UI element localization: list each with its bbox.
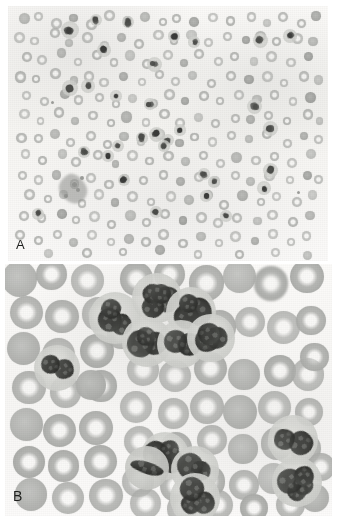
red-blood-cell (240, 494, 269, 516)
red-blood-cell (199, 91, 208, 100)
red-blood-cell (283, 117, 291, 125)
red-blood-cell (216, 97, 224, 105)
red-blood-cell (54, 107, 64, 117)
red-blood-cell (107, 220, 116, 229)
red-blood-cell (305, 211, 315, 221)
red-blood-cell (57, 48, 67, 58)
red-blood-cell (216, 159, 225, 168)
red-blood-cell (19, 211, 30, 222)
red-blood-cell (176, 177, 185, 186)
red-blood-cell (199, 151, 208, 160)
red-blood-cell (139, 176, 148, 185)
red-blood-cell (271, 248, 280, 257)
red-blood-cell (179, 216, 187, 224)
red-blood-cell (32, 75, 40, 83)
red-blood-cell (18, 171, 27, 180)
red-blood-cell (230, 231, 241, 242)
red-blood-cell (119, 132, 128, 141)
red-blood-cell (112, 160, 120, 168)
red-blood-cell (160, 209, 170, 219)
red-blood-cell (237, 190, 248, 201)
red-blood-cell (104, 10, 115, 21)
nucleus (176, 128, 181, 133)
red-blood-cell (107, 238, 115, 246)
red-blood-cell (119, 72, 128, 81)
red-blood-cell (270, 90, 280, 100)
red-blood-cell (74, 58, 83, 67)
red-blood-cell (267, 210, 278, 221)
red-blood-cell (270, 152, 279, 161)
red-blood-cell (48, 450, 79, 481)
red-blood-cell (227, 131, 237, 141)
panel-b (5, 264, 332, 516)
red-blood-cell (194, 49, 204, 59)
red-blood-cell (158, 229, 169, 240)
red-blood-cell (94, 189, 104, 199)
red-blood-cell (251, 237, 259, 245)
red-blood-cell (95, 93, 104, 102)
red-blood-cell (99, 78, 108, 87)
red-blood-cell (142, 118, 151, 127)
red-blood-cell (235, 250, 244, 259)
red-blood-cell (71, 264, 104, 297)
red-blood-cell (45, 300, 78, 333)
red-blood-cell (305, 92, 316, 103)
red-blood-cell (306, 149, 316, 159)
red-blood-cell (178, 239, 187, 248)
red-blood-cell (272, 37, 281, 46)
red-blood-cell (254, 266, 289, 301)
red-blood-cell (52, 482, 84, 514)
red-blood-cell (128, 94, 137, 103)
red-blood-cell (50, 68, 61, 79)
red-blood-cell (65, 39, 73, 47)
red-blood-cell (119, 248, 127, 256)
red-blood-cell (145, 157, 154, 166)
red-blood-cell (230, 52, 239, 61)
red-blood-cell (69, 238, 78, 247)
red-blood-cell (110, 58, 119, 67)
red-blood-cell (53, 230, 62, 239)
red-blood-cell (262, 71, 273, 82)
red-blood-cell (189, 17, 199, 27)
red-blood-cell (158, 398, 189, 429)
red-blood-cell (36, 264, 67, 290)
red-blood-cell (264, 111, 273, 120)
red-blood-cell (250, 57, 258, 65)
red-blood-cell (51, 18, 62, 29)
red-blood-cell (190, 133, 199, 142)
red-blood-cell (10, 408, 43, 441)
red-blood-cell (303, 251, 312, 260)
red-blood-cell (138, 78, 146, 86)
red-blood-cell (316, 117, 324, 125)
red-blood-cell (266, 51, 277, 62)
red-blood-cell (147, 198, 155, 206)
platelet (297, 191, 300, 194)
red-blood-cell (223, 264, 256, 293)
red-blood-cell (34, 12, 43, 21)
red-blood-cell (247, 12, 256, 21)
red-blood-cell (300, 132, 309, 141)
red-blood-cell (302, 231, 311, 240)
red-blood-cell (297, 19, 306, 28)
red-blood-cell (180, 59, 188, 67)
red-blood-cell (175, 139, 183, 147)
red-blood-cell (257, 198, 265, 206)
red-blood-cell (204, 38, 213, 47)
red-blood-cell (246, 115, 255, 124)
red-blood-cell (308, 190, 318, 200)
red-blood-cell (125, 50, 136, 61)
red-blood-cell (311, 11, 320, 20)
red-blood-cell (208, 13, 217, 22)
red-blood-cell (87, 230, 98, 241)
red-blood-cell (299, 71, 310, 82)
red-blood-cell (223, 32, 232, 41)
red-blood-cell (82, 248, 92, 258)
red-blood-cell (89, 211, 100, 222)
red-blood-cell (120, 391, 152, 423)
red-blood-cell (82, 32, 93, 43)
red-blood-cell (253, 217, 262, 226)
red-blood-cell (196, 212, 207, 223)
red-blood-cell (86, 131, 96, 141)
red-blood-cell (231, 114, 240, 123)
red-blood-cell (166, 191, 176, 201)
